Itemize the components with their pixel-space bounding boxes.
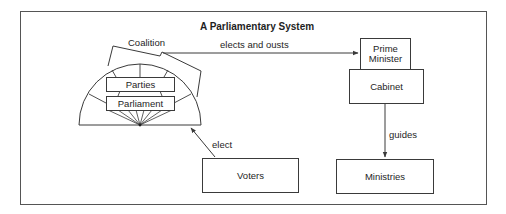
parties-label: Parties xyxy=(106,77,175,92)
prime-minister-label-line2: Minister xyxy=(369,54,402,64)
ministries-label: Ministries xyxy=(336,159,434,194)
diagram-title: A Parliamentary System xyxy=(200,21,314,32)
parliament-label: Parliament xyxy=(106,96,175,111)
elects-and-ousts-label: elects and ousts xyxy=(220,39,289,50)
voters-label: Voters xyxy=(202,158,299,193)
prime-minister-label: Prime Minister xyxy=(360,38,411,70)
cabinet-label: Cabinet xyxy=(349,69,424,104)
elect-label: elect xyxy=(212,139,232,150)
coalition-label: Coalition xyxy=(128,37,165,48)
guides-label: guides xyxy=(389,129,417,140)
